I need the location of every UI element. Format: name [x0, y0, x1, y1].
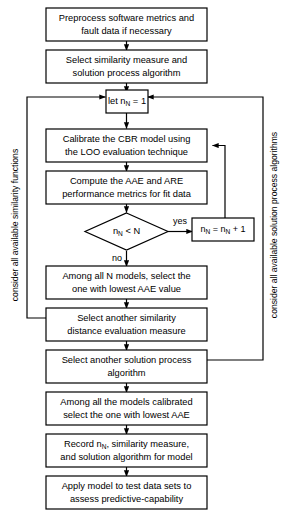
- node-another-solution-line2: algorithm: [107, 368, 145, 378]
- increment-middle: = n: [210, 224, 225, 234]
- init-prefix: let n: [108, 96, 126, 106]
- increment-suffix: + 1: [230, 224, 245, 234]
- node-another-similarity-line2: distance evaluation measure: [67, 326, 185, 336]
- init-suffix: = 1: [130, 96, 146, 106]
- node-select-lowest-aae-line2: one with lowest AAE value: [72, 284, 181, 294]
- node-among-calibrated-line1: Among all the models calibrated: [60, 397, 192, 407]
- node-apply-model-line1: Apply model to test data sets to: [62, 481, 192, 491]
- node-preprocess-line2: fault data if necessary: [81, 26, 172, 36]
- decision-suffix: < N: [123, 226, 140, 236]
- node-record-line1: Record nN, similarity measure,: [64, 439, 189, 449]
- node-preprocess-line1: Preprocess software metrics and: [59, 13, 194, 23]
- edge-label-yes: yes: [173, 216, 188, 226]
- node-select-lowest-aae-line1: Among all N models, select the: [62, 271, 190, 281]
- node-select-similarity-line1: Select similarity measure and: [66, 55, 187, 65]
- node-record-line2: and solution algorithm for model: [60, 452, 192, 462]
- node-calibrate-line2: the LOO evaluation technique: [65, 147, 188, 157]
- flowchart-diagram: Preprocess software metrics and fault da…: [0, 0, 287, 517]
- node-select-similarity-line2: solution process algorithm: [73, 68, 181, 78]
- edge-label-no: no: [112, 253, 122, 263]
- node-compute-metrics-line2: performance metrics for fit data: [62, 189, 191, 199]
- record-suffix: , similarity measure,: [106, 439, 189, 449]
- node-calibrate-line1: Calibrate the CBR model using: [63, 134, 191, 144]
- node-apply-model-line2: assess predictive-capability: [70, 494, 184, 504]
- side-label-left: consider all available similarity functi…: [10, 149, 20, 301]
- node-compute-metrics-line1: Compute the AAE and ARE: [70, 176, 183, 186]
- connector-increment-to-calibrate: [213, 146, 226, 219]
- node-among-calibrated-line2: select the one with lowest AAE: [63, 410, 190, 420]
- side-label-right: consider all available solution process …: [269, 132, 279, 318]
- node-another-similarity-line1: Select another similarity: [77, 313, 176, 323]
- flowchart-canvas: Preprocess software metrics and fault da…: [0, 0, 287, 517]
- node-another-solution-line1: Select another solution process: [62, 355, 192, 365]
- node-decision-label: nN < N: [113, 226, 140, 236]
- record-prefix: Record n: [64, 439, 102, 449]
